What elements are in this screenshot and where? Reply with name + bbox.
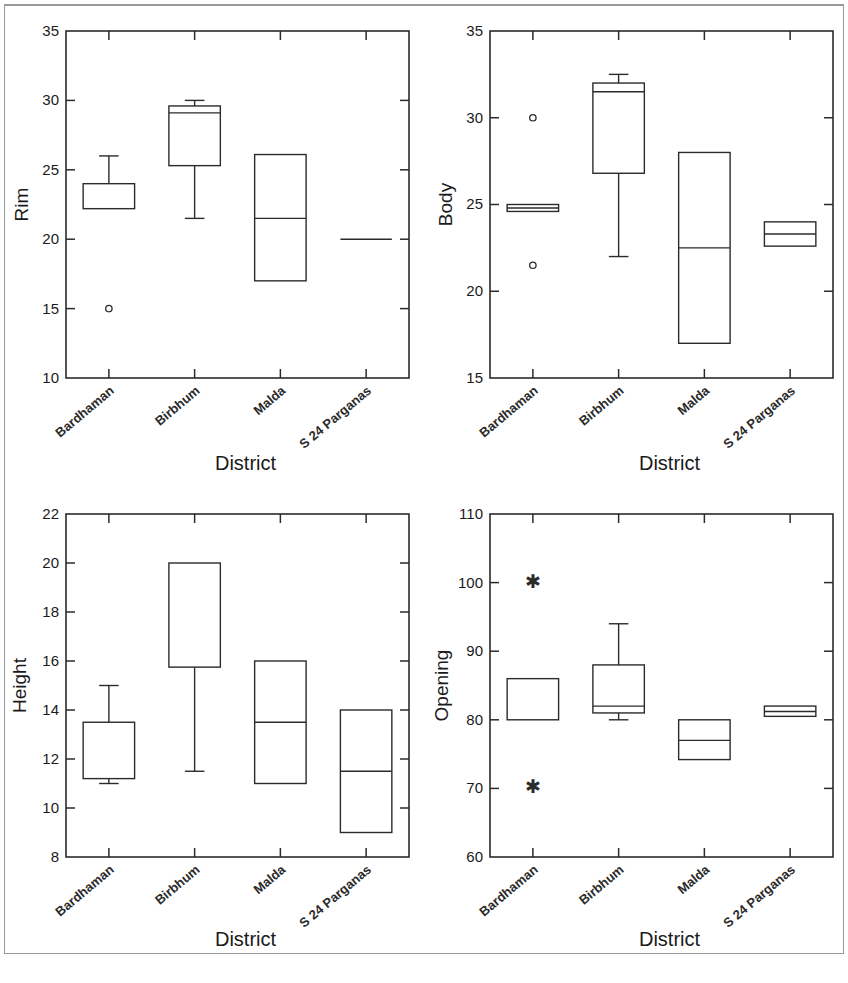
x-tick-label-0: Bardhaman bbox=[52, 383, 116, 441]
x-tick-label-1: Birbhum bbox=[576, 383, 627, 429]
y-tick-label: 20 bbox=[466, 282, 483, 299]
panel-opening: 60708090100110BardhamanBirbhumMaldaS 24 … bbox=[424, 491, 848, 982]
box-group-bardhaman bbox=[83, 686, 134, 784]
y-tick-label: 25 bbox=[466, 195, 483, 212]
box-group-malda bbox=[679, 720, 730, 760]
outlier-star-1: ✱ bbox=[525, 776, 541, 797]
x-axis-title: District bbox=[639, 452, 701, 474]
outlier-star-0: ✱ bbox=[525, 571, 541, 592]
box-group-birbhum bbox=[169, 100, 220, 218]
box-group-s-24-parganas bbox=[764, 706, 815, 716]
y-tick-label: 14 bbox=[42, 701, 59, 718]
box-group-malda bbox=[255, 661, 306, 784]
x-tick-label-2: Malda bbox=[674, 861, 712, 897]
y-axis-title: Opening bbox=[431, 650, 452, 722]
box-rect bbox=[169, 563, 220, 667]
x-tick-label-3: S 24 Parganas bbox=[720, 383, 798, 452]
box-group-malda bbox=[679, 152, 730, 343]
y-tick-label: 16 bbox=[42, 652, 59, 669]
y-tick-label: 10 bbox=[42, 369, 59, 386]
boxplot-svg-height: 810121416182022BardhamanBirbhumMaldaS 24… bbox=[0, 491, 424, 983]
box-group-birbhum bbox=[593, 74, 644, 256]
box-group-malda bbox=[255, 155, 306, 281]
x-tick-label-0: Bardhaman bbox=[476, 862, 540, 920]
y-tick-label: 15 bbox=[42, 300, 59, 317]
box-group-bardhaman bbox=[507, 115, 558, 269]
y-tick-label: 110 bbox=[459, 505, 483, 522]
y-tick-label: 20 bbox=[42, 554, 59, 571]
box-rect bbox=[83, 184, 134, 209]
y-tick-label: 35 bbox=[42, 22, 59, 39]
y-tick-label: 35 bbox=[466, 22, 483, 39]
x-tick-label-2: Malda bbox=[674, 382, 712, 418]
panel-body: 1520253035BardhamanBirbhumMaldaS 24 Parg… bbox=[424, 0, 848, 491]
y-axis-title: Rim bbox=[11, 188, 32, 222]
x-tick-label-3: S 24 Parganas bbox=[296, 383, 374, 452]
y-tick-label: 22 bbox=[42, 505, 59, 522]
y-tick-label: 90 bbox=[466, 642, 483, 659]
x-tick-label-2: Malda bbox=[250, 861, 288, 897]
y-tick-label: 18 bbox=[42, 603, 59, 620]
outlier-circle-1 bbox=[530, 262, 536, 268]
box-group-s-24-parganas bbox=[340, 710, 391, 833]
y-tick-label: 70 bbox=[466, 779, 483, 796]
box-group-bardhaman: ✱✱ bbox=[507, 571, 558, 798]
x-axis-title: District bbox=[215, 928, 277, 950]
x-tick-label-1: Birbhum bbox=[152, 383, 203, 429]
y-tick-label: 20 bbox=[42, 230, 59, 247]
x-tick-label-0: Bardhaman bbox=[52, 862, 116, 920]
x-tick-label-1: Birbhum bbox=[576, 862, 627, 908]
y-tick-label: 25 bbox=[42, 161, 59, 178]
box-group-birbhum bbox=[169, 563, 220, 771]
x-tick-label-0: Bardhaman bbox=[476, 383, 540, 441]
y-tick-label: 100 bbox=[458, 574, 483, 591]
boxplot-svg-opening: 60708090100110BardhamanBirbhumMaldaS 24 … bbox=[424, 491, 848, 983]
box-rect bbox=[593, 83, 644, 173]
box-group-bardhaman bbox=[83, 156, 134, 312]
y-axis-title: Height bbox=[9, 657, 30, 713]
box-rect bbox=[507, 679, 558, 720]
x-tick-label-3: S 24 Parganas bbox=[296, 862, 374, 931]
y-tick-label: 12 bbox=[42, 750, 59, 767]
y-tick-label: 60 bbox=[466, 848, 483, 865]
boxplot-svg-rim: 101520253035BardhamanBirbhumMaldaS 24 Pa… bbox=[0, 0, 424, 491]
y-tick-label: 30 bbox=[466, 109, 483, 126]
boxplot-svg-body: 1520253035BardhamanBirbhumMaldaS 24 Parg… bbox=[424, 0, 848, 491]
x-tick-label-2: Malda bbox=[250, 382, 288, 418]
y-tick-label: 8 bbox=[51, 848, 59, 865]
x-tick-label-1: Birbhum bbox=[152, 862, 203, 908]
y-tick-label: 10 bbox=[42, 799, 59, 816]
y-tick-label: 80 bbox=[466, 711, 483, 728]
panel-rim: 101520253035BardhamanBirbhumMaldaS 24 Pa… bbox=[0, 0, 424, 491]
box-group-birbhum bbox=[593, 624, 644, 720]
outlier-circle-0 bbox=[106, 305, 112, 311]
y-tick-label: 15 bbox=[466, 369, 483, 386]
box-group-s-24-parganas bbox=[764, 222, 815, 246]
box-rect bbox=[83, 722, 134, 778]
panel-height: 810121416182022BardhamanBirbhumMaldaS 24… bbox=[0, 491, 424, 982]
figure-root: 101520253035BardhamanBirbhumMaldaS 24 Pa… bbox=[0, 0, 848, 983]
x-tick-label-3: S 24 Parganas bbox=[720, 862, 798, 931]
y-tick-label: 30 bbox=[42, 91, 59, 108]
x-axis-title: District bbox=[639, 928, 701, 950]
y-axis-title: Body bbox=[435, 182, 456, 226]
outlier-circle-0 bbox=[530, 115, 536, 121]
x-axis-title: District bbox=[215, 452, 277, 474]
box-rect bbox=[169, 106, 220, 166]
